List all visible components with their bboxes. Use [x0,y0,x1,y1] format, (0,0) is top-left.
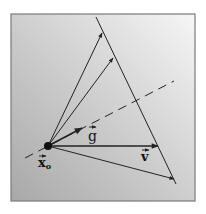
figure-frame [11,14,195,201]
origin-point [44,142,52,150]
label-g: g [88,127,97,144]
label-v: v [140,149,149,164]
svg-text:g: g [88,128,97,144]
vector-diagram: g v xo [0,0,206,214]
svg-text:v: v [140,149,149,164]
